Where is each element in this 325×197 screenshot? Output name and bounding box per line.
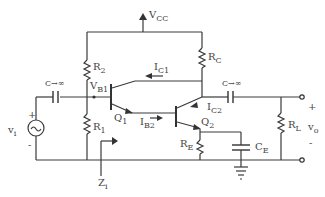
label-rc: RC: [208, 52, 222, 65]
ic2-arrow-icon: [190, 102, 198, 108]
label-vcc: VCC: [149, 10, 168, 23]
capacitor-cin-icon: [36, 91, 58, 103]
label-re: RE: [180, 139, 193, 152]
resistor-r1-icon: [84, 97, 90, 160]
label-cin: C→∞: [45, 80, 65, 88]
capacitor-cout-icon: [228, 91, 300, 103]
circuit-diagram: VCC R2 RC IC1 VB1 C→∞ C→∞ Q1 IB2 IC2 Q2 …: [0, 0, 325, 197]
zi-arrow-icon: [101, 137, 118, 176]
vo-plus-sign: +: [308, 102, 316, 112]
label-vo: vo: [308, 122, 318, 135]
ac-source-icon: [28, 97, 44, 160]
resistor-re-icon: [197, 132, 203, 160]
label-ib2: IB2: [140, 117, 155, 130]
vi-plus-sign: +: [28, 110, 36, 120]
label-ic1: IC1: [154, 62, 169, 75]
vi-minus-sign: -: [28, 140, 31, 150]
q2-emitter-icon: [177, 122, 201, 132]
label-q2: Q2: [201, 117, 214, 130]
label-r1: R1: [93, 122, 106, 135]
label-vb1: VB1: [90, 81, 108, 94]
output-terminal-minus: [300, 158, 304, 162]
capacitor-ce-icon: [200, 132, 250, 160]
label-r2: R2: [93, 62, 106, 75]
output-terminal-plus: [300, 95, 304, 99]
circuit-schematic: [0, 0, 325, 197]
resistor-rl-icon: [278, 97, 284, 160]
label-ce: CE: [255, 142, 269, 155]
vcc-supply-icon: [139, 13, 147, 32]
label-cout: C→∞: [222, 80, 242, 88]
label-ic2: IC2: [207, 102, 222, 115]
ground-icon: [234, 160, 248, 179]
resistor-rc-icon: [199, 32, 205, 97]
vo-minus-sign: -: [309, 138, 312, 148]
label-vi: vi: [8, 125, 16, 138]
label-rl: RL: [288, 120, 301, 133]
label-q1: Q1: [114, 113, 127, 126]
label-zi: Zi: [98, 178, 108, 191]
